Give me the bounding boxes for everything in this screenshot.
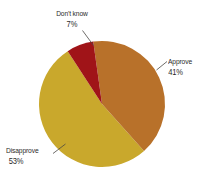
pie-label-disapprove: Disapprove 53% bbox=[6, 146, 38, 166]
pie-chart: Don't know 7% Approve 41% Disapprove 53% bbox=[0, 0, 202, 182]
pie-label-approve-value: 41% bbox=[168, 67, 192, 77]
pie-label-dontknow-name: Don't know bbox=[56, 9, 88, 18]
pie-slices bbox=[39, 41, 165, 167]
pie-label-disapprove-name: Disapprove bbox=[6, 146, 38, 155]
pie-label-approve: Approve 41% bbox=[168, 57, 192, 77]
pie-label-dontknow: Don't know 7% bbox=[56, 9, 88, 29]
pie-label-dontknow-value: 7% bbox=[56, 19, 88, 29]
pie-label-approve-name: Approve bbox=[168, 57, 192, 66]
leader-line-approve bbox=[157, 62, 168, 71]
pie-label-disapprove-value: 53% bbox=[6, 156, 38, 166]
